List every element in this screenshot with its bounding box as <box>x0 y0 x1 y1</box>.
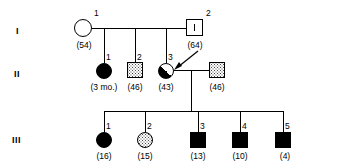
sibship-drop-iii-3 <box>198 111 199 132</box>
individual-number-iii-5: 5 <box>285 122 290 131</box>
individual-age-iii-1: (16) <box>89 152 119 161</box>
individual-age-ii-3: (43) <box>151 83 181 92</box>
sibship-line-gen3 <box>104 111 283 112</box>
proband-arrow-icon <box>172 50 200 70</box>
individual-symbol-ii-1[interactable] <box>96 63 112 79</box>
individual-number-iii-1: 1 <box>106 122 111 131</box>
individual-symbol-ii-2[interactable] <box>127 62 143 78</box>
descent-line-gen2-gen3 <box>191 70 192 111</box>
sibship-drop-ii-3 <box>166 28 167 63</box>
sibship-drop-iii-4 <box>240 111 241 132</box>
sibship-drop-ii-1 <box>104 28 105 63</box>
individual-age-iii-3: (13) <box>183 152 213 161</box>
individual-symbol-iii-3[interactable] <box>190 132 206 148</box>
individual-symbol-iii-2[interactable] <box>137 132 153 148</box>
carrier-tick-icon <box>194 24 195 31</box>
individual-symbol-iii-4[interactable] <box>232 132 248 148</box>
individual-number-i-2: 2 <box>206 9 211 18</box>
pedigree-chart: I II III 1 (54) 2 (64) 1 (3 mo.) 2 (46) … <box>0 0 346 168</box>
individual-age-iii-5: (4) <box>270 152 300 161</box>
generation-label-iii: III <box>12 136 21 145</box>
individual-number-iii-2: 2 <box>147 122 152 131</box>
generation-label-i: I <box>16 27 19 36</box>
individual-symbol-ii-4[interactable] <box>209 62 225 78</box>
generation-label-ii: II <box>14 70 20 79</box>
individual-number-i-1: 1 <box>94 9 99 18</box>
individual-symbol-i-2[interactable] <box>186 19 203 36</box>
mating-line-gen1 <box>92 28 186 29</box>
individual-age-ii-4: (46) <box>202 83 232 92</box>
individual-number-ii-2: 2 <box>137 53 142 62</box>
individual-age-iii-2: (15) <box>130 152 160 161</box>
individual-number-iii-4: 4 <box>242 122 247 131</box>
individual-number-ii-1: 1 <box>106 53 111 62</box>
sibship-drop-ii-2 <box>135 28 136 62</box>
sibship-drop-iii-2 <box>145 111 146 132</box>
individual-age-ii-2: (46) <box>120 83 150 92</box>
individual-symbol-i-1[interactable] <box>74 19 92 37</box>
sibship-drop-iii-5 <box>283 111 284 132</box>
individual-age-iii-4: (10) <box>225 152 255 161</box>
individual-symbol-iii-5[interactable] <box>275 132 291 148</box>
sibship-drop-iii-1 <box>104 111 105 132</box>
individual-age-i-2: (64) <box>180 41 210 50</box>
individual-age-i-1: (54) <box>69 41 99 50</box>
individual-symbol-iii-1[interactable] <box>96 132 112 148</box>
individual-age-ii-1: (3 mo.) <box>84 83 124 92</box>
individual-number-iii-3: 3 <box>200 122 205 131</box>
